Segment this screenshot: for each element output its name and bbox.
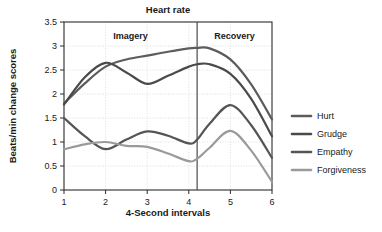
y-axis-tick-labels: 00.511.522.533.5 [44,17,57,195]
y-tick-label: 3 [52,41,57,51]
legend-label-grudge: Grudge [317,129,347,139]
panel-label: Recovery [214,31,255,41]
grid-lines [64,22,272,190]
x-tick-label: 4 [186,197,191,207]
y-tick-label: 2.5 [44,65,57,75]
chart-legend: HurtGrudgeEmpathyForgiveness [292,111,367,175]
y-tick-label: 3.5 [44,17,57,27]
x-tick-label: 1 [61,197,66,207]
x-axis-ticks [64,190,272,194]
chart-title: Heart rate [146,4,190,15]
y-tick-label: 1.5 [44,113,57,123]
legend-label-empathy: Empathy [317,147,353,157]
y-axis-ticks [60,22,64,190]
x-axis-title: 4-Second intervals [126,207,210,218]
heart-rate-chart: 00.511.522.533.5 123456 ImageryRecovery … [0,0,382,232]
series-line-forgiveness [64,131,272,182]
legend-label-forgiveness: Forgiveness [317,165,367,175]
chart-canvas: 00.511.522.533.5 123456 ImageryRecovery … [0,0,382,232]
y-tick-label: 0 [52,185,57,195]
y-axis-title: Beats/min change scores [7,49,18,164]
series-line-empathy [64,105,272,158]
panel-label: Imagery [113,31,148,41]
series-lines [64,47,272,181]
legend-label-hurt: Hurt [317,111,335,121]
y-tick-label: 0.5 [44,161,57,171]
y-tick-label: 1 [52,137,57,147]
x-axis-tick-labels: 123456 [61,197,274,207]
x-tick-label: 3 [145,197,150,207]
y-tick-label: 2 [52,89,57,99]
plot-frame [64,22,272,190]
x-tick-label: 6 [269,197,274,207]
x-tick-label: 5 [228,197,233,207]
panel-labels: ImageryRecovery [113,31,255,41]
x-tick-label: 2 [103,197,108,207]
